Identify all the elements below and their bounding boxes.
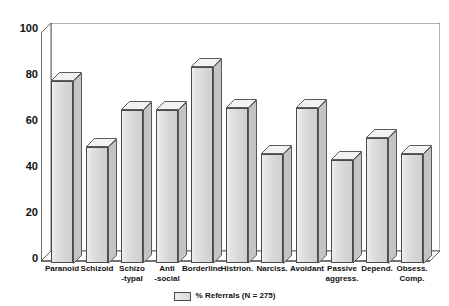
y-tick-label: 40 [4,161,38,172]
bar-front-face [296,108,318,263]
bar-front-face [366,138,388,263]
bar-side-face [178,102,186,263]
bar-side-face [353,152,361,263]
bar [261,146,283,263]
y-tick-label: 100 [4,23,38,34]
bar-front-face [191,67,213,263]
bar-top-face [121,101,152,110]
bar-side-face [108,139,116,263]
bar-side-face [423,146,431,263]
x-tick-label: Passive aggress. [322,264,362,284]
bar-side-face [248,100,256,263]
bar-top-face [86,138,117,147]
y-tick-label: 80 [4,69,38,80]
bar-top-face [191,58,222,67]
bar-top-face [156,101,187,110]
bar-top-face [296,99,327,108]
bar-chart: 100 80 60 40 20 0 [0,0,449,306]
x-tick-label: Schizoid [77,264,117,274]
bar-front-face [51,81,73,263]
y-tick-label: 20 [4,207,38,218]
bar-series [41,23,440,263]
bar [121,102,143,263]
bar-side-face [143,102,151,263]
bar-top-face [226,99,257,108]
bar-front-face [86,147,108,263]
bar-front-face [401,154,423,263]
x-tick-label: Paranoid [42,264,82,274]
bar-front-face [121,110,143,263]
bar [331,152,353,263]
bar-side-face [73,73,81,263]
x-tick-label: Borderline [182,264,222,274]
x-tick-label: Depend. [357,264,397,274]
x-tick-label: Avoidant [287,264,327,274]
x-tick-label: Histrion. [217,264,257,274]
y-tick-label: 0 [4,253,38,264]
bar-side-face [283,146,291,263]
x-tick-label: Obsess. Comp. [392,264,432,284]
bar [366,130,388,263]
legend-swatch [174,292,191,301]
chart-legend: % Referrals (N = 275) [0,288,449,304]
bar-top-face [51,72,82,81]
bar-top-face [261,145,292,154]
bar-front-face [261,154,283,263]
bar-top-face [401,145,432,154]
bar-side-face [388,130,396,263]
bar-front-face [331,160,353,263]
y-axis: 100 80 60 40 20 0 [2,0,38,306]
bar-front-face [156,110,178,263]
bar-side-face [318,100,326,263]
x-tick-label: Narciss. [252,264,292,274]
bar-front-face [226,108,248,263]
bar-side-face [213,59,221,263]
bar-top-face [331,151,362,160]
x-tick-label: Schizo -typal [112,264,152,284]
x-tick-label: Anti -social [147,264,187,284]
bar [191,59,213,263]
bar [156,102,178,263]
bar [401,146,423,263]
y-tick-label: 60 [4,115,38,126]
bar [86,139,108,263]
legend-label: % Referrals (N = 275) [196,291,276,301]
bar [226,100,248,263]
bar-top-face [366,129,397,138]
bar [51,73,73,263]
bar [296,100,318,263]
